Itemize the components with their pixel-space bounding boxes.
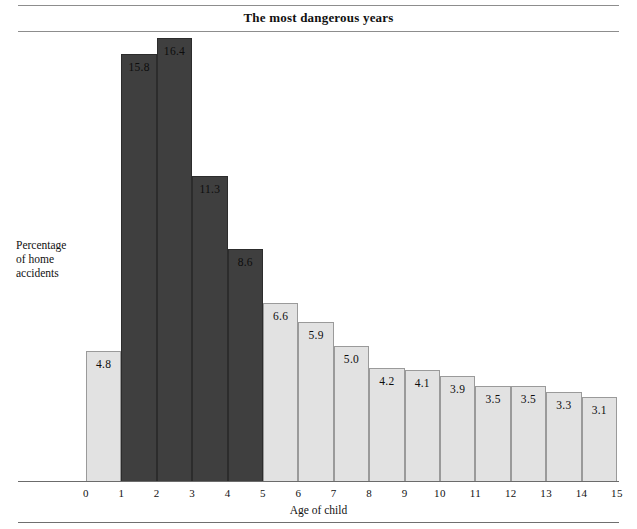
x-tick-5: 5	[251, 487, 275, 500]
bar-value-label: 5.9	[299, 329, 332, 342]
x-tick-1: 1	[109, 487, 133, 500]
x-axis-label: Age of child	[18, 503, 619, 517]
x-tick-3: 3	[180, 487, 204, 500]
bar-age-6: 5.9	[298, 322, 333, 481]
bar-value-label: 15.8	[122, 61, 155, 74]
x-tick-6: 6	[286, 487, 310, 500]
bar-value-label: 5.0	[335, 353, 368, 366]
bar-value-label: 8.6	[229, 256, 262, 269]
bar-age-10: 3.9	[440, 376, 475, 481]
bar-age-12: 3.5	[511, 386, 546, 481]
bar-age-7: 5.0	[334, 346, 369, 481]
bar-age-8: 4.2	[369, 368, 404, 481]
bar-value-label: 6.6	[264, 310, 297, 323]
x-tick-15: 15	[605, 487, 629, 500]
x-tick-13: 13	[534, 487, 558, 500]
x-axis-baseline	[18, 481, 619, 482]
x-tick-10: 10	[428, 487, 452, 500]
bar-value-label: 3.1	[583, 404, 616, 417]
x-tick-11: 11	[463, 487, 487, 500]
x-tick-9: 9	[393, 487, 417, 500]
bar-age-1: 15.8	[121, 54, 156, 481]
bar-value-label: 3.3	[547, 399, 580, 412]
bar-value-label: 16.4	[158, 45, 191, 58]
bar-value-label: 4.2	[370, 375, 403, 388]
bar-age-11: 3.5	[475, 386, 510, 481]
bar-age-0: 4.8	[86, 351, 121, 481]
x-tick-14: 14	[570, 487, 594, 500]
x-tick-2: 2	[145, 487, 169, 500]
bar-age-13: 3.3	[546, 392, 581, 481]
bar-age-3: 11.3	[192, 176, 227, 481]
x-tick-4: 4	[216, 487, 240, 500]
bar-value-label: 11.3	[193, 183, 226, 196]
bar-age-5: 6.6	[263, 303, 298, 481]
x-tick-8: 8	[357, 487, 381, 500]
bottom-rule	[18, 522, 619, 523]
bar-value-label: 4.1	[406, 377, 439, 390]
x-tick-12: 12	[499, 487, 523, 500]
bar-value-label: 3.5	[512, 393, 545, 406]
bar-age-4: 8.6	[228, 249, 263, 481]
chart-plot-area: 4.815.816.411.38.66.65.95.04.24.13.93.53…	[0, 0, 637, 529]
bar-value-label: 3.9	[441, 383, 474, 396]
x-tick-7: 7	[322, 487, 346, 500]
x-tick-0: 0	[74, 487, 98, 500]
bar-age-9: 4.1	[405, 370, 440, 481]
bar-age-2: 16.4	[157, 38, 192, 481]
bar-age-14: 3.1	[582, 397, 617, 481]
bar-value-label: 4.8	[87, 358, 120, 371]
bar-value-label: 3.5	[476, 393, 509, 406]
